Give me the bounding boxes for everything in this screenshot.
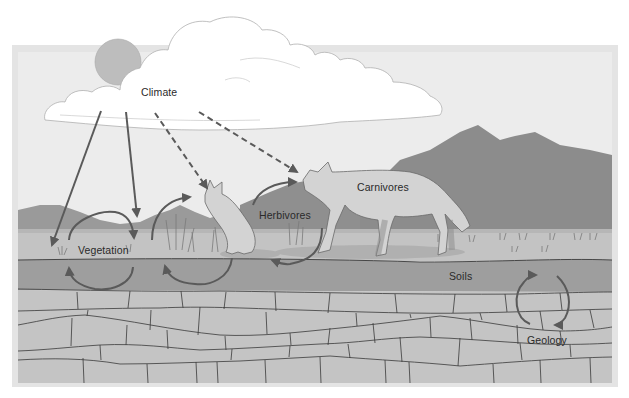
herbivores-label: Herbivores — [259, 209, 311, 221]
soil-layer — [18, 259, 612, 292]
carnivores-label: Carnivores — [357, 181, 409, 193]
vegetation-label: Vegetation — [78, 244, 129, 256]
animal-shadow — [275, 245, 465, 259]
soils-label: Soils — [449, 270, 472, 282]
rock-layer — [18, 290, 612, 383]
climate-label: Climate — [141, 86, 177, 98]
geology-label: Geology — [527, 334, 567, 346]
ecosystem-diagram: Climate Vegetation Herbivores Carnivores… — [0, 0, 629, 398]
grass-top-band — [18, 229, 612, 233]
